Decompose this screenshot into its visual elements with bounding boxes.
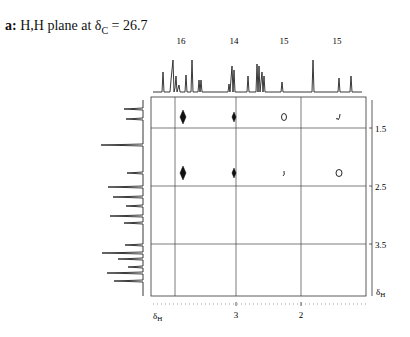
right-tick-2: 2.5 <box>375 182 387 192</box>
top-label-1: 16 <box>177 36 187 46</box>
cross-peaks <box>180 110 342 180</box>
bottom-tick-2: 2 <box>299 310 304 320</box>
plot-frame <box>151 97 366 296</box>
top-label-2: 14 <box>230 36 240 46</box>
right-tick-1: 1.5 <box>375 124 387 134</box>
bottom-axis-unit: δH <box>153 311 162 323</box>
bottom-tick-1: 3 <box>234 310 239 320</box>
top-spectrum <box>153 60 362 92</box>
right-axis-unit: δH <box>376 287 385 299</box>
right-tick-3: 3.5 <box>375 240 387 250</box>
top-label-3: 15 <box>280 36 290 46</box>
nmr-figure: 16 14 15 15 1.5 2.5 3.5 δH 3 2 δH <box>0 0 410 337</box>
left-spectrum <box>101 100 143 296</box>
top-label-4: 15 <box>333 36 343 46</box>
